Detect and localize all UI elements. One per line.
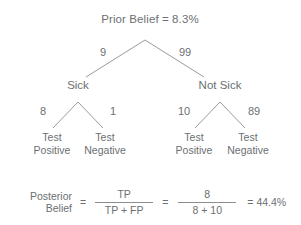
tree-leaf-not-sick-test-positive: Test Positive — [176, 131, 213, 156]
symbolic-denominator: TP + FP — [101, 203, 148, 217]
edge-label-sick-count: 9 — [100, 47, 106, 58]
leaf-label-line2: Negative — [227, 144, 268, 157]
leaf-label-line1: Test — [227, 131, 268, 144]
numeric-fraction: 8 8 + 10 — [178, 188, 236, 217]
numeric-denominator: 8 + 10 — [189, 203, 227, 217]
edge-label-not-sick-count: 99 — [179, 47, 191, 58]
edge-label-true-negative-count: 89 — [248, 106, 260, 117]
leaf-label-line1: Test — [84, 131, 125, 144]
leaf-label-line1: Test — [34, 131, 71, 144]
leaf-label-line1: Test — [176, 131, 213, 144]
bayes-tree-diagram: Prior Belief = 8.3% 9 99 Sick Not Sick 8… — [0, 0, 301, 225]
equals-sign-1: = — [80, 196, 86, 208]
leaf-label-line2: Positive — [34, 144, 71, 157]
tree-node-sick: Sick — [67, 80, 89, 91]
posterior-belief-formula: Posterior Belief = TP TP + FP = 8 8 + 10… — [0, 182, 301, 222]
posterior-belief-result: 44.4% — [256, 196, 286, 208]
leaf-label-line2: Negative — [84, 144, 125, 157]
edge-label-false-positive-count: 10 — [178, 106, 190, 117]
diagram-title: Prior Belief = 8.3% — [101, 14, 198, 25]
symbolic-numerator: TP — [113, 188, 134, 202]
equals-sign-2: = — [162, 196, 168, 208]
posterior-label-line1: Posterior — [0, 190, 72, 203]
tree-leaf-sick-test-positive: Test Positive — [34, 131, 71, 156]
edge-label-false-negative-count: 1 — [110, 106, 116, 117]
symbolic-fraction: TP TP + FP — [95, 188, 153, 217]
posterior-belief-label: Posterior Belief — [0, 190, 72, 215]
equals-sign-3: = — [247, 196, 253, 208]
numeric-numerator: 8 — [200, 188, 214, 202]
tree-leaf-not-sick-test-negative: Test Negative — [227, 131, 268, 156]
tree-node-not-sick: Not Sick — [199, 80, 242, 91]
leaf-label-line2: Positive — [176, 144, 213, 157]
tree-leaf-sick-test-negative: Test Negative — [84, 131, 125, 156]
posterior-label-line2: Belief — [0, 202, 72, 215]
edge-label-true-positive-count: 8 — [40, 106, 46, 117]
